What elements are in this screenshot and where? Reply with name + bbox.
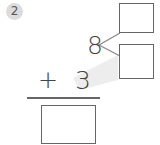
plus-operator: +: [38, 68, 58, 93]
sum-line: [27, 97, 100, 99]
addend-number: 3: [75, 68, 91, 93]
problem-number-badge: 2: [6, 3, 23, 20]
answer-box[interactable]: [41, 105, 96, 144]
decompose-box-bottom[interactable]: [119, 44, 154, 79]
decompose-box-top[interactable]: [119, 3, 154, 33]
top-number: 8: [87, 33, 103, 58]
